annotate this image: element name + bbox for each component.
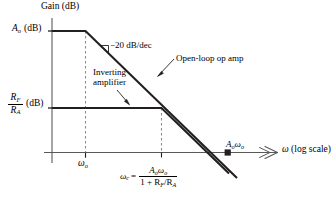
slope-annotation: −20 dB/dec (110, 41, 152, 50)
inverting-leader-arrow (117, 90, 130, 105)
y-tick-label-ao: Ao(dB) (12, 24, 41, 34)
inverting-amplifier-annotation: Inverting amplifier (93, 67, 126, 87)
unity-gain-point-marker (225, 149, 231, 155)
bode-plot-figure: Gain (dB) Ao(dB) RF RA (dB) ω (log scale… (0, 0, 333, 201)
slope-triangle-marker (100, 46, 109, 53)
open-loop-annotation: Open-loop op amp (176, 54, 244, 63)
inverting-annotation-line1: Inverting (93, 67, 126, 77)
open-loop-leader-arrow (158, 59, 175, 77)
x-axis-title: ω (log scale) (282, 145, 331, 155)
y-tick-marks (48, 31, 52, 108)
omega-c-equation: ωc = Aoωo 1 + RF/RA (120, 166, 177, 187)
unity-gain-annotation: Aoωo (226, 140, 244, 149)
y-tick-label-rf-ra: RF RA (dB) (8, 93, 43, 115)
rf-ra-fraction: RF RA (8, 93, 23, 115)
omega-c-fraction: Aoωo 1 + RF/RA (139, 166, 177, 187)
x-tick-label-omega-o: ωo (78, 159, 88, 169)
inverting-annotation-line2: amplifier (93, 77, 126, 87)
x-tick-marks (86, 153, 162, 158)
y-axis-title: Gain (dB) (41, 2, 79, 12)
